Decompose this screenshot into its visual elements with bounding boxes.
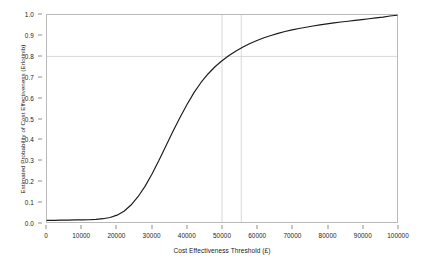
x-tick-mark bbox=[398, 225, 399, 229]
y-tick-mark bbox=[38, 14, 42, 15]
y-tick-label: 0.6 bbox=[25, 94, 34, 101]
acceptability-curve bbox=[47, 15, 397, 220]
x-tick-mark bbox=[362, 225, 363, 229]
x-tick-mark bbox=[81, 225, 82, 229]
y-axis-ticks: 0.00.10.20.30.40.50.60.70.80.91.0 bbox=[0, 14, 42, 223]
x-tick-mark bbox=[257, 225, 258, 229]
acceptability-curve-layer bbox=[47, 15, 397, 222]
x-tick-mark bbox=[151, 225, 152, 229]
y-tick-label: 0.7 bbox=[25, 73, 34, 80]
x-tick-label: 30000 bbox=[143, 232, 161, 239]
x-tick-label: 10000 bbox=[72, 232, 90, 239]
x-tick-label: 0 bbox=[44, 232, 48, 239]
y-tick-label: 0.0 bbox=[25, 220, 34, 227]
x-tick-mark bbox=[186, 225, 187, 229]
y-tick-mark bbox=[38, 97, 42, 98]
x-tick-mark bbox=[46, 225, 47, 229]
x-tick-label: 90000 bbox=[354, 232, 372, 239]
x-tick-label: 50000 bbox=[213, 232, 231, 239]
x-tick-label: 20000 bbox=[107, 232, 125, 239]
plot-area bbox=[46, 14, 398, 223]
y-tick-mark bbox=[38, 34, 42, 35]
x-tick-label: 80000 bbox=[319, 232, 337, 239]
y-tick-label: 0.8 bbox=[25, 52, 34, 59]
x-tick-label: 100000 bbox=[387, 232, 409, 239]
x-tick-mark bbox=[292, 225, 293, 229]
y-tick-mark bbox=[38, 181, 42, 182]
y-tick-label: 0.9 bbox=[25, 31, 34, 38]
y-tick-mark bbox=[38, 202, 42, 203]
x-tick-label: 60000 bbox=[248, 232, 266, 239]
x-tick-mark bbox=[222, 225, 223, 229]
y-tick-label: 0.2 bbox=[25, 178, 34, 185]
y-tick-mark bbox=[38, 160, 42, 161]
y-tick-label: 1.0 bbox=[25, 11, 34, 18]
y-tick-mark bbox=[38, 118, 42, 119]
y-tick-label: 0.5 bbox=[25, 115, 34, 122]
y-tick-mark bbox=[38, 223, 42, 224]
y-tick-mark bbox=[38, 139, 42, 140]
x-axis-ticks: 0100002000030000400005000060000700008000… bbox=[46, 225, 398, 243]
x-tick-label: 70000 bbox=[283, 232, 301, 239]
x-tick-mark bbox=[116, 225, 117, 229]
y-tick-mark bbox=[38, 55, 42, 56]
cost-effectiveness-acceptability-chart: Estimated Probability of Cost Effectiven… bbox=[0, 0, 422, 274]
y-tick-label: 0.4 bbox=[25, 136, 34, 143]
x-tick-mark bbox=[327, 225, 328, 229]
x-axis-title: Cost Effectiveness Threshold (£) bbox=[46, 247, 398, 254]
x-tick-label: 40000 bbox=[178, 232, 196, 239]
y-tick-label: 0.3 bbox=[25, 157, 34, 164]
y-tick-label: 0.1 bbox=[25, 199, 34, 206]
y-tick-mark bbox=[38, 76, 42, 77]
